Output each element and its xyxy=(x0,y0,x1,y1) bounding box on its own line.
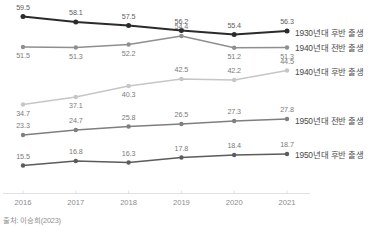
data-point-marker xyxy=(232,32,237,37)
legend-item-label: 1940년대 전반 출생 xyxy=(295,43,364,53)
x-axis-label: 2021 xyxy=(279,198,296,207)
data-point-label: 54.4 xyxy=(175,22,189,31)
data-point-marker xyxy=(73,20,78,25)
data-point-marker xyxy=(285,117,289,121)
data-point-label: 44.5 xyxy=(280,57,294,66)
data-point-marker xyxy=(179,77,183,81)
data-point-marker xyxy=(126,160,130,164)
data-point-marker xyxy=(126,84,130,88)
data-point-label: 23.3 xyxy=(16,121,30,130)
data-point-label: 25.8 xyxy=(122,113,136,122)
series-group xyxy=(21,14,290,168)
data-point-label: 51.5 xyxy=(16,51,30,60)
x-axis-label: 2017 xyxy=(67,198,84,207)
x-axis-label: 2018 xyxy=(120,198,137,207)
data-point-label: 42.5 xyxy=(175,65,189,74)
data-point-label: 55.4 xyxy=(227,21,241,30)
data-point-marker xyxy=(21,14,26,19)
data-point-label: 24.7 xyxy=(69,116,83,125)
series-line xyxy=(23,119,287,135)
legend-item-label: 1950년대 후반 출생 xyxy=(295,150,364,160)
data-point-label: 56.3 xyxy=(280,17,294,26)
data-point-marker xyxy=(232,46,236,50)
source-note: 출처: 이승희(2023) xyxy=(3,214,61,225)
x-axis-label: 2016 xyxy=(15,198,32,207)
data-point-label: 58.1 xyxy=(69,8,83,17)
data-point-marker xyxy=(179,122,183,126)
data-point-label: 27.8 xyxy=(280,105,294,114)
data-point-label: 52.2 xyxy=(122,49,136,58)
series-line xyxy=(23,36,287,48)
data-point-marker xyxy=(21,163,25,167)
data-point-marker xyxy=(126,124,130,128)
data-point-marker xyxy=(74,95,78,99)
data-value-labels: 59.558.157.556.255.456.351.551.352.254.4… xyxy=(16,3,294,161)
data-point-marker xyxy=(232,153,236,157)
legend-item-label: 1940년대 후반 출생 xyxy=(295,67,364,77)
legend-item-label: 1930년대 후반 출생 xyxy=(295,28,364,38)
x-axis-label: 2020 xyxy=(226,198,243,207)
data-point-marker xyxy=(74,128,78,132)
data-point-label: 59.5 xyxy=(16,3,30,12)
data-point-label: 16.3 xyxy=(122,149,136,158)
series-line xyxy=(23,154,287,166)
data-point-marker xyxy=(179,155,183,159)
data-point-marker xyxy=(232,119,236,123)
data-point-label: 51.3 xyxy=(69,52,83,61)
data-point-label: 16.8 xyxy=(69,147,83,156)
data-point-marker xyxy=(74,159,78,163)
data-point-label: 34.7 xyxy=(16,109,30,118)
data-point-marker xyxy=(285,152,289,156)
data-point-marker xyxy=(285,29,290,34)
data-point-marker xyxy=(285,45,289,49)
data-point-label: 15.5 xyxy=(16,152,30,161)
data-point-label: 37.1 xyxy=(69,101,83,110)
data-point-label: 51.2 xyxy=(227,52,241,61)
data-point-marker xyxy=(126,23,131,28)
legend: 1930년대 후반 출생1940년대 전반 출생1940년대 후반 출생1950… xyxy=(295,28,364,160)
data-point-marker xyxy=(179,34,183,38)
x-axis-tick-marks xyxy=(23,191,287,194)
data-point-marker xyxy=(21,133,25,137)
data-point-label: 27.3 xyxy=(227,107,241,116)
x-axis-label: 2019 xyxy=(173,198,190,207)
series-line xyxy=(23,17,287,35)
data-point-label: 40.3 xyxy=(122,90,136,99)
data-point-marker xyxy=(74,45,78,49)
data-point-marker xyxy=(21,102,25,106)
chart-plot-area: 59.558.157.556.255.456.351.551.352.254.4… xyxy=(0,0,373,226)
data-point-marker xyxy=(285,68,289,72)
data-point-label: 26.5 xyxy=(175,110,189,119)
x-axis-tick-labels: 201620172018201920202021 xyxy=(15,198,296,207)
series-line xyxy=(23,71,287,105)
data-point-label: 18.7 xyxy=(280,140,294,149)
data-point-label: 42.2 xyxy=(227,66,241,75)
data-point-marker xyxy=(21,45,25,49)
data-point-marker xyxy=(126,42,130,46)
data-point-marker xyxy=(232,78,236,82)
data-point-label: 57.5 xyxy=(122,12,136,21)
legend-item-label: 1950년대 전반 출생 xyxy=(295,116,364,126)
line-chart: 59.558.157.556.255.456.351.551.352.254.4… xyxy=(0,0,373,226)
data-point-label: 18.4 xyxy=(227,141,241,150)
data-point-label: 17.8 xyxy=(175,144,189,153)
